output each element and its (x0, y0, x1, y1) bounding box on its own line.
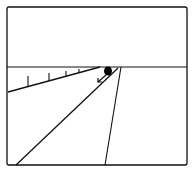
frame-border (7, 7, 187, 165)
fence-line (8, 67, 100, 92)
distant-object-icon (104, 67, 112, 76)
road-right-edge (105, 67, 121, 165)
road-left-edge (16, 68, 118, 165)
road-scene-diagram (0, 0, 195, 176)
